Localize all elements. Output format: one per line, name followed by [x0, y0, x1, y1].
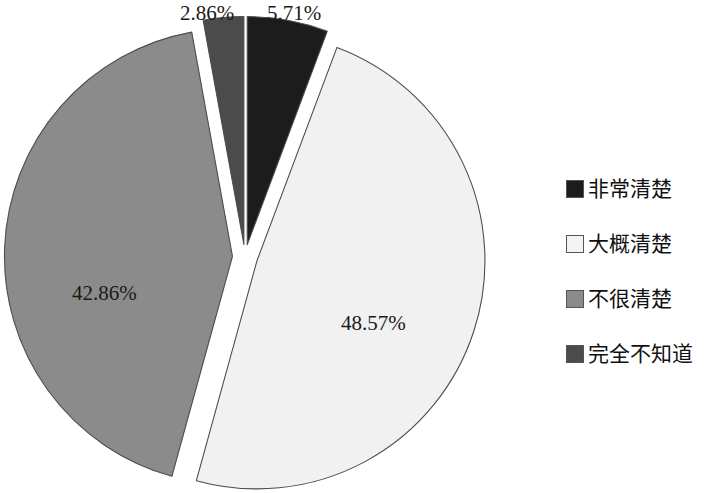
legend-label-completely-unknown: 完全不知道 — [588, 342, 693, 366]
legend-swatch-roughly-clear — [566, 235, 584, 253]
legend-item-roughly-clear: 大概清楚 — [566, 231, 708, 256]
legend-swatch-completely-unknown — [566, 345, 584, 363]
pie-chart-canvas — [0, 0, 520, 493]
legend-label-roughly-clear: 大概清楚 — [588, 232, 672, 256]
legend-swatch-not-very-clear — [566, 290, 584, 308]
legend-label-not-very-clear: 不很清楚 — [588, 287, 672, 311]
slice-label-very-clear: 5.71% — [267, 1, 321, 26]
slice-label-roughly-clear: 48.57% — [341, 311, 406, 336]
slice-label-completely-unknown: 2.86% — [180, 1, 234, 26]
legend-item-not-very-clear: 不很清楚 — [566, 286, 708, 311]
legend-label-very-clear: 非常清楚 — [588, 177, 672, 201]
pie-slices-group — [4, 17, 484, 489]
legend-swatch-very-clear — [566, 180, 584, 198]
legend-item-very-clear: 非常清楚 — [566, 176, 708, 201]
pie-slice-not-very-clear — [4, 32, 232, 476]
pie-chart: 2.86% 5.71% 42.86% 48.57% 非常清楚 大概清楚 不很清楚… — [0, 0, 711, 493]
legend-item-completely-unknown: 完全不知道 — [566, 341, 708, 366]
chart-legend: 非常清楚 大概清楚 不很清楚 完全不知道 — [566, 176, 708, 366]
slice-label-not-very-clear: 42.86% — [72, 281, 137, 306]
